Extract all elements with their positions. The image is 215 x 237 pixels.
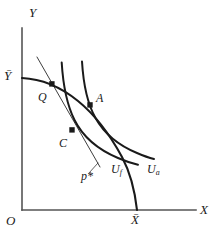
uf-base: U <box>111 162 120 176</box>
point-label-a: A <box>96 92 103 104</box>
ua-base: U <box>147 162 156 176</box>
x-intercept-label: X̄ <box>131 213 139 226</box>
ppf-diagram: Y X Ȳ X̄ O Q A C p* Uf Ua <box>0 0 215 237</box>
y-intercept-label: Ȳ <box>4 69 11 82</box>
point-label-c: C <box>59 137 67 149</box>
indifference-curve-uf <box>62 63 138 165</box>
axis-group <box>22 28 196 210</box>
x-axis-label: X <box>200 203 208 216</box>
y-axis-label: Y <box>29 6 36 19</box>
uf-subscript: f <box>120 168 122 177</box>
indifference-curve-ua <box>82 62 154 160</box>
ua-subscript: a <box>156 168 160 177</box>
point-label-q: Q <box>38 91 47 103</box>
price-line-label: p* <box>81 170 93 182</box>
point-marker-c <box>69 127 74 132</box>
indifference-curve-ua-label: Ua <box>147 163 160 177</box>
indifference-curve-uf-label: Uf <box>111 163 122 177</box>
origin-label: O <box>6 214 15 227</box>
point-marker-a <box>87 102 92 107</box>
diagram-canvas <box>0 0 215 237</box>
point-marker-q <box>49 81 54 86</box>
